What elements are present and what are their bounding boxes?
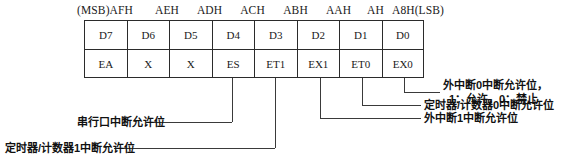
table-row-bit-names: EA X X ES ET1 EX1 ET0 EX0: [85, 50, 423, 79]
bit-name-x-d6: X: [128, 50, 171, 78]
address-label-afh: (MSB)AFH: [62, 3, 148, 18]
annotation-et0: 定时器/计数器0中断允许位: [424, 99, 554, 112]
leader-line-et0-vertical: [362, 78, 363, 105]
address-label-aah: AAH: [317, 3, 360, 18]
address-header-row: (MSB)AFH AEH ADH ACH ABH AAH AH A8H(LSB): [84, 3, 424, 18]
bit-name-x-d5: X: [170, 50, 213, 78]
address-label-aeh: AEH: [146, 3, 188, 18]
bit-name-ex0: EX0: [383, 50, 424, 78]
annotation-ex1: 外中断1中断允许位: [424, 112, 518, 125]
leader-line-et0-horizontal: [362, 105, 421, 106]
table-row-bit-numbers: D7 D6 D5 D4 D3 D2 D1 D0: [85, 21, 423, 50]
bit-number-d6: D6: [128, 21, 171, 49]
bit-number-d0: D0: [383, 21, 424, 49]
bit-number-d4: D4: [213, 21, 256, 49]
bit-number-d3: D3: [255, 21, 298, 49]
bit-number-d5: D5: [170, 21, 213, 49]
bit-number-d1: D1: [340, 21, 383, 49]
bit-name-et1: ET1: [255, 50, 298, 78]
bit-table: D7 D6 D5 D4 D3 D2 D1 D0 EA X X ES ET1 EX…: [84, 20, 424, 78]
ie-register-bit-diagram: (MSB)AFH AEH ADH ACH ABH AAH AH A8H(LSB)…: [0, 0, 563, 167]
annotation-es: 串行口中断允许位: [77, 116, 165, 129]
bit-name-es: ES: [213, 50, 256, 78]
bit-number-d7: D7: [85, 21, 128, 49]
leader-line-es-vertical: [232, 78, 233, 122]
leader-line-ex1-horizontal: [320, 118, 421, 119]
address-label-adh: ADH: [188, 3, 231, 18]
bit-name-ex1: EX1: [298, 50, 341, 78]
annotation-ex0-line1: 外中断0中断允许位，: [443, 79, 548, 92]
bit-name-ea: EA: [85, 50, 128, 78]
address-label-ach: ACH: [231, 3, 274, 18]
bit-number-d2: D2: [298, 21, 341, 49]
leader-line-et1-vertical: [275, 78, 276, 148]
bit-name-et0: ET0: [340, 50, 383, 78]
annotation-et1: 定时器/计数器1中断允许位: [5, 142, 135, 155]
address-label-abh: ABH: [274, 3, 317, 18]
leader-line-ex1-vertical: [320, 78, 321, 118]
leader-line-ex0-vertical: [404, 78, 405, 92]
leader-line-ex0-horizontal: [404, 92, 440, 93]
leader-line-et1-horizontal: [114, 148, 275, 149]
address-label-a8h: A8H(LSB): [387, 3, 449, 18]
